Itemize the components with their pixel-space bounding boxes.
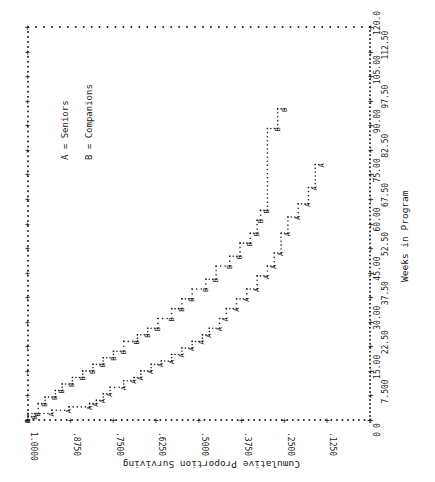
y-tick-label: .3750 bbox=[243, 432, 252, 456]
svg-text:+: + bbox=[25, 220, 30, 229]
y-tick-label: 1.0000 bbox=[29, 432, 38, 461]
data-point-marker: B bbox=[263, 209, 271, 213]
data-point-marker: A bbox=[178, 353, 186, 358]
svg-text:+: + bbox=[367, 415, 373, 425]
x-tick-label: 45.00 bbox=[373, 256, 382, 280]
svg-text:+: + bbox=[25, 146, 30, 155]
svg-text:+: + bbox=[368, 47, 374, 57]
data-point-marker: A bbox=[157, 362, 165, 367]
x-tick-label: 82.50 bbox=[381, 134, 390, 158]
svg-text:+: + bbox=[25, 269, 30, 278]
data-point-marker: A bbox=[147, 369, 155, 374]
x-tick-label: 22.50 bbox=[381, 330, 390, 354]
legend-seniors: A = Seniors bbox=[60, 100, 70, 160]
svg-text:+: + bbox=[111, 415, 117, 425]
svg-text:+: + bbox=[25, 293, 30, 302]
data-point-marker: B bbox=[99, 363, 107, 367]
svg-text:+: + bbox=[368, 390, 374, 400]
x-tick-label: 52.50 bbox=[381, 232, 390, 256]
data-point-marker: A bbox=[263, 274, 271, 279]
weeks-axis-ticks: +0+7.500+15.00+22.50+30.00+37.50+45.00+5… bbox=[368, 11, 390, 428]
svg-text:+: + bbox=[25, 195, 30, 204]
svg-text:+: + bbox=[324, 415, 330, 425]
data-point-marker: B bbox=[41, 402, 49, 406]
data-point-marker: B bbox=[257, 219, 265, 223]
svg-text:+: + bbox=[25, 244, 30, 253]
data-point-marker: B bbox=[178, 307, 186, 311]
data-point-marker: A bbox=[277, 251, 285, 256]
y-axis-label: Cumulative Proportion Surviving bbox=[123, 459, 300, 470]
data-point-marker: B bbox=[202, 288, 210, 292]
data-point-marker: A bbox=[106, 392, 114, 397]
data-point-marker: B bbox=[89, 370, 97, 374]
plot-frame: +++++++++++++++++ bbox=[25, 23, 371, 425]
data-point-marker: B bbox=[79, 376, 87, 380]
y-tick-label: 0 bbox=[371, 432, 380, 437]
data-point-marker: B bbox=[154, 327, 162, 331]
svg-text:+: + bbox=[25, 170, 30, 179]
data-point-marker: B bbox=[144, 334, 152, 338]
y-tick-label: .7500 bbox=[115, 432, 124, 456]
data-point-marker: A bbox=[222, 316, 230, 321]
svg-text:+: + bbox=[196, 415, 202, 425]
data-point-marker: B bbox=[253, 232, 261, 236]
svg-text:+: + bbox=[368, 145, 374, 155]
data-point-marker: B bbox=[246, 242, 254, 246]
data-point-marker: A bbox=[284, 231, 292, 236]
data-point-marker: B bbox=[51, 396, 59, 400]
data-point-marker: A bbox=[233, 307, 241, 312]
data-point-marker: B bbox=[68, 383, 76, 387]
survival-axis-ticks: +0+.1250+.2500+.3750+.5000+.6250+.7500+.… bbox=[25, 415, 380, 461]
x-tick-label: 37.50 bbox=[381, 281, 390, 305]
x-tick-label: 15.00 bbox=[373, 355, 382, 379]
data-point-marker: A bbox=[294, 215, 302, 220]
x-tick-label: 7.500 bbox=[381, 379, 390, 403]
data-point-marker: B bbox=[281, 108, 289, 112]
data-point-marker: B bbox=[168, 317, 176, 321]
data-point-marker: B bbox=[58, 389, 66, 393]
x-tick-label: 112.50 bbox=[381, 30, 390, 59]
data-point-marker: A bbox=[243, 297, 251, 302]
y-tick-label: .6250 bbox=[157, 432, 166, 456]
x-tick-label: 67.50 bbox=[381, 183, 390, 207]
data-point-marker: A bbox=[168, 359, 176, 364]
legend: A = Seniors B = Companions bbox=[60, 84, 94, 160]
svg-text:+: + bbox=[25, 23, 30, 32]
x-tick-label: 120.0 bbox=[373, 11, 382, 35]
data-point-marker: A bbox=[311, 185, 319, 190]
data-point-marker: B bbox=[110, 357, 118, 361]
svg-text:+: + bbox=[25, 121, 30, 130]
data-point-marker: B bbox=[212, 278, 220, 282]
x-tick-label: 97.50 bbox=[381, 84, 390, 108]
data-point-marker: A bbox=[318, 163, 326, 168]
y-tick-label: .1250 bbox=[328, 432, 337, 456]
data-point-marker: A bbox=[48, 411, 56, 416]
data-point-marker: B bbox=[120, 350, 128, 354]
data-point-marker: A bbox=[270, 264, 278, 269]
svg-text:+: + bbox=[368, 96, 374, 106]
data-point-marker: B bbox=[226, 265, 234, 269]
x-tick-label: 60.00 bbox=[373, 207, 382, 231]
svg-text:+: + bbox=[368, 292, 374, 302]
data-point-marker: A bbox=[304, 202, 312, 207]
svg-text:+: + bbox=[153, 415, 159, 425]
data-point-marker: A bbox=[198, 339, 206, 344]
svg-text:+: + bbox=[25, 72, 30, 81]
data-point-marker: A bbox=[205, 333, 213, 338]
svg-text:+: + bbox=[239, 415, 245, 425]
x-tick-label: 0 bbox=[373, 423, 382, 428]
data-point-marker: B bbox=[274, 127, 282, 131]
x-tick-label: 30.00 bbox=[373, 305, 382, 329]
data-point-marker: A bbox=[253, 287, 261, 292]
data-point-marker: B bbox=[188, 298, 196, 302]
x-tick-label: 90.00 bbox=[373, 109, 382, 133]
y-tick-label: .8750 bbox=[72, 432, 81, 456]
svg-text:+: + bbox=[68, 415, 74, 425]
data-point-marker: A bbox=[120, 385, 128, 390]
svg-text:+: + bbox=[368, 194, 374, 204]
data-point-marker: A bbox=[137, 375, 145, 380]
svg-text:+: + bbox=[368, 341, 374, 351]
chart-svg: +++++++++++++++++ +0+7.500+15.00+22.50+3… bbox=[0, 0, 435, 482]
svg-text:+: + bbox=[25, 48, 30, 57]
x-tick-label: 75.00 bbox=[373, 158, 382, 182]
